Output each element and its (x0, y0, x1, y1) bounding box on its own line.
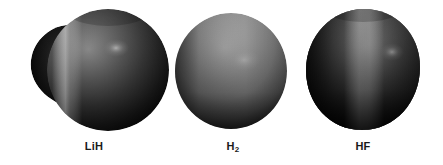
molecule-label-lih-text: LiH (85, 140, 103, 152)
molecule-label-hf: HF (300, 140, 426, 152)
molecule-hf: HF (300, 4, 426, 134)
molecular-surfaces-figure: LiH (0, 0, 443, 165)
molecule-h2: H2 (172, 4, 294, 134)
hf-surface-graphic (300, 4, 426, 134)
lih-surface-graphic (18, 4, 170, 134)
h2-surface-graphic (172, 4, 294, 134)
molecule-label-lih: LiH (18, 140, 170, 152)
hf-body (300, 4, 426, 134)
molecule-label-hf-text: HF (355, 140, 370, 152)
h2-body (172, 4, 294, 134)
molecule-label-h2-subscript: 2 (235, 145, 240, 154)
molecule-lih: LiH (18, 4, 170, 134)
molecule-label-h2: H2 (172, 140, 294, 152)
molecule-label-h2-text: H (227, 140, 235, 152)
